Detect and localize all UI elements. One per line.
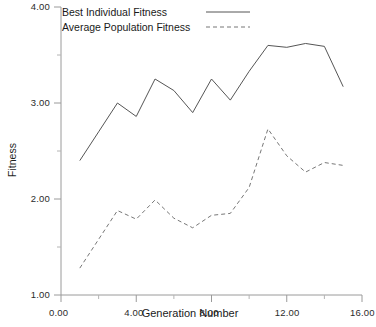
legend-entry-average-population-fitness: Average Population Fitness <box>62 21 190 33</box>
chart-canvas: Fitness <box>0 0 376 327</box>
y-axis-title: Fitness <box>6 143 18 177</box>
y-tick-label: 2.00 <box>0 193 50 204</box>
y-tick-label: 1.00 <box>0 289 50 300</box>
x-tick-label: 16.00 <box>350 307 375 318</box>
legend-entry-best-individual-fitness: Best Individual Fitness <box>62 6 167 18</box>
series-line-best-individual-fitness <box>80 43 343 160</box>
fitness-line-chart: Fitness 1.002.003.004.00 0.004.008.0012.… <box>0 0 376 327</box>
y-tick-label: 4.00 <box>0 1 50 12</box>
x-tick-label: 4.00 <box>124 307 143 318</box>
series-line-average-population-fitness <box>80 129 343 268</box>
x-tick-label: 12.00 <box>275 307 300 318</box>
x-axis-title: Generation Number <box>142 307 239 319</box>
y-tick-label: 3.00 <box>0 97 50 108</box>
x-axis-ticks <box>61 295 362 302</box>
y-axis-ticks <box>54 7 61 295</box>
x-tick-label: 0.00 <box>49 307 68 318</box>
